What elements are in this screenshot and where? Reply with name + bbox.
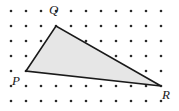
grid-dot <box>145 40 148 43</box>
grid-dot <box>25 55 28 58</box>
grid-dot <box>130 55 133 58</box>
grid-dot <box>145 70 148 73</box>
grid-dot <box>100 25 103 28</box>
grid-dot <box>40 40 43 43</box>
grid-dot <box>25 100 28 103</box>
grid-dot <box>145 55 148 58</box>
grid-dot <box>70 25 73 28</box>
grid-dot <box>40 85 43 88</box>
grid-dot <box>55 85 58 88</box>
vertex-label-q: Q <box>49 3 58 16</box>
grid-dot <box>100 100 103 103</box>
grid-dot <box>10 70 13 73</box>
grid-dot <box>130 10 133 13</box>
grid-dot <box>130 25 133 28</box>
triangle-pqr <box>26 26 161 86</box>
grid-dot <box>55 100 58 103</box>
grid-dot <box>85 100 88 103</box>
grid-dot <box>160 55 163 58</box>
grid-dot <box>115 85 118 88</box>
grid-dot <box>70 85 73 88</box>
dot-grid-triangle-figure: P Q R <box>0 0 179 111</box>
vertex-label-p: P <box>12 74 20 87</box>
grid-dot <box>145 25 148 28</box>
grid-dot <box>100 10 103 13</box>
grid-dot <box>10 100 13 103</box>
grid-dot <box>115 25 118 28</box>
grid-dot <box>10 25 13 28</box>
grid-dot <box>40 100 43 103</box>
grid-dot <box>160 70 163 73</box>
grid-dot <box>160 40 163 43</box>
grid-dot <box>145 10 148 13</box>
grid-dot <box>160 25 163 28</box>
grid-dot <box>130 100 133 103</box>
grid-dot <box>130 85 133 88</box>
geometry-canvas <box>0 0 179 111</box>
vertex-label-r: R <box>162 88 170 101</box>
grid-dot <box>25 85 28 88</box>
grid-dot <box>100 85 103 88</box>
grid-dot <box>25 10 28 13</box>
grid-dot <box>115 55 118 58</box>
grid-dot <box>130 40 133 43</box>
grid-dot <box>40 10 43 13</box>
grid-dot <box>85 10 88 13</box>
grid-dot <box>100 40 103 43</box>
grid-dot <box>70 10 73 13</box>
grid-dot <box>10 40 13 43</box>
grid-dot <box>115 100 118 103</box>
grid-dot <box>25 25 28 28</box>
grid-dot <box>85 25 88 28</box>
grid-dot <box>85 85 88 88</box>
grid-dot <box>25 40 28 43</box>
grid-dot <box>10 10 13 13</box>
grid-dot <box>115 40 118 43</box>
grid-dot <box>160 10 163 13</box>
grid-dot <box>10 55 13 58</box>
grid-dot <box>145 100 148 103</box>
grid-dot <box>40 25 43 28</box>
grid-dot <box>70 100 73 103</box>
grid-dot <box>115 10 118 13</box>
